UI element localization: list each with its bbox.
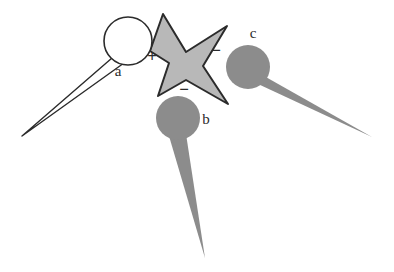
sign-minus-right: − [211,41,221,60]
object-b-head [156,96,200,140]
object-c-head [226,45,270,89]
label-b: b [202,111,210,127]
label-c: c [250,25,257,41]
figure-canvas: + − − a b c [0,0,394,272]
object-a-head [104,17,152,65]
figure-background [0,0,394,272]
sign-plus: + [147,47,157,66]
label-a: a [115,63,122,79]
diagram-svg: + − − a b c [0,0,394,272]
sign-minus-bottom: − [179,80,189,99]
